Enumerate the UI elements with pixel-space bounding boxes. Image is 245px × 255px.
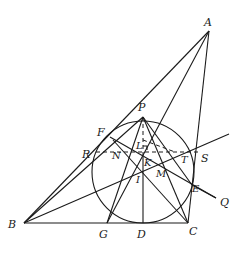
label-L: L [135,140,143,151]
label-R: R [81,148,90,161]
label-S: S [201,152,209,165]
label-I: I [135,174,141,185]
label-A: A [203,16,212,29]
label-M: M [155,168,167,179]
label-T: T [181,154,189,165]
label-P: P [137,101,146,114]
label-G: G [99,228,108,241]
side-AC [188,31,209,223]
label-B: B [7,218,16,231]
label-N: N [111,150,122,161]
label-E: E [191,183,200,194]
label-K: K [143,157,152,168]
geometry-diagram: A B C D E F G I K L M N P Q R S T [0,0,245,255]
label-Q: Q [220,196,229,209]
label-D: D [136,228,146,241]
label-F: F [96,126,105,139]
label-C: C [189,225,198,238]
line-AG [107,31,209,223]
line-BI [24,134,229,223]
